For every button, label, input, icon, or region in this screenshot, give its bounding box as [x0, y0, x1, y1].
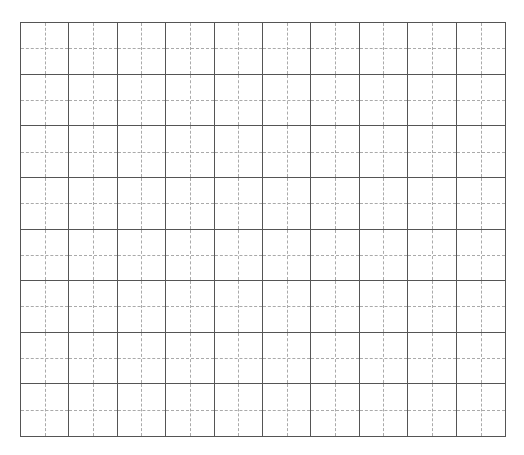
grid-cell	[263, 23, 311, 75]
grid-cell	[311, 384, 359, 436]
grid-cell	[215, 75, 263, 127]
grid-cell	[118, 126, 166, 178]
grid-cell	[21, 333, 69, 385]
grid-cell	[263, 75, 311, 127]
grid-cell	[360, 178, 408, 230]
grid-cell	[21, 384, 69, 436]
grid-cell	[118, 333, 166, 385]
grid-cell	[69, 281, 117, 333]
grid-cell	[118, 230, 166, 282]
grid-cell	[118, 178, 166, 230]
grid-cell	[263, 281, 311, 333]
grid-cell	[360, 126, 408, 178]
grid-cell	[21, 126, 69, 178]
grid-cell	[457, 333, 505, 385]
grid-cell	[408, 178, 456, 230]
grid-cell	[311, 333, 359, 385]
writing-practice-grid	[20, 22, 506, 437]
grid-cell	[215, 230, 263, 282]
grid-cell	[166, 75, 214, 127]
grid-cell	[360, 75, 408, 127]
grid-cell	[118, 384, 166, 436]
grid-cell	[21, 75, 69, 127]
grid-cell	[408, 23, 456, 75]
grid-cell	[408, 126, 456, 178]
grid-cell	[69, 75, 117, 127]
grid-cell	[166, 281, 214, 333]
grid-cell	[360, 333, 408, 385]
grid-cell	[69, 126, 117, 178]
grid-cell	[263, 126, 311, 178]
grid-cell	[215, 23, 263, 75]
grid-cell	[215, 178, 263, 230]
grid-cell	[311, 23, 359, 75]
grid-cell	[311, 281, 359, 333]
grid-cell	[360, 384, 408, 436]
grid-cell	[457, 230, 505, 282]
grid-cell	[215, 126, 263, 178]
grid-cell	[21, 178, 69, 230]
grid-cell	[311, 178, 359, 230]
grid-cell	[408, 230, 456, 282]
grid-cell	[215, 333, 263, 385]
grid-cell	[457, 75, 505, 127]
grid-cell	[166, 178, 214, 230]
grid-cell	[408, 384, 456, 436]
grid-cell	[408, 333, 456, 385]
grid-cell	[457, 178, 505, 230]
grid-cell	[118, 281, 166, 333]
grid-cell	[408, 75, 456, 127]
grid-cell	[69, 178, 117, 230]
grid-cell	[215, 281, 263, 333]
grid-cell	[69, 384, 117, 436]
grid-cell	[360, 281, 408, 333]
grid-cell	[408, 281, 456, 333]
grid-cell	[263, 333, 311, 385]
grid-cell	[457, 281, 505, 333]
grid-cell	[69, 230, 117, 282]
grid-cell	[263, 178, 311, 230]
grid-cell	[166, 23, 214, 75]
grid-cell	[69, 333, 117, 385]
grid-cell	[457, 23, 505, 75]
grid-cell	[69, 23, 117, 75]
grid-cell	[166, 230, 214, 282]
grid-cell	[215, 384, 263, 436]
grid-cell	[118, 23, 166, 75]
grid-cell	[263, 384, 311, 436]
grid-cell	[118, 75, 166, 127]
grid-cell	[311, 126, 359, 178]
grid-cell	[360, 230, 408, 282]
grid-cell	[166, 384, 214, 436]
grid-cell	[311, 75, 359, 127]
grid-cell	[21, 230, 69, 282]
grid-cell	[311, 230, 359, 282]
grid-cell	[457, 126, 505, 178]
grid-cell	[21, 23, 69, 75]
grid-cell	[263, 230, 311, 282]
grid-cell	[21, 281, 69, 333]
grid-cell	[166, 126, 214, 178]
grid-cell	[166, 333, 214, 385]
grid-cell	[360, 23, 408, 75]
grid-cell	[457, 384, 505, 436]
